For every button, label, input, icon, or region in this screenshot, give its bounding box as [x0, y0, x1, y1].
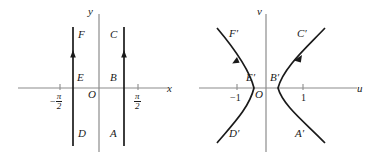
point-label-D-prime: D′: [229, 128, 239, 139]
w-plane-drawing: [185, 0, 370, 166]
u-tick-label-minus-one: −1: [230, 93, 241, 103]
arrow-up-icon-right-line: [121, 50, 127, 58]
y-axis-label: y: [88, 6, 93, 17]
curve-branch-right: [278, 28, 325, 143]
point-label-B-prime: B′: [270, 72, 279, 83]
point-label-E-prime: E′: [246, 72, 255, 83]
v-axis-label: v: [257, 6, 262, 17]
point-label-D: D: [78, 128, 86, 139]
fraction-pi-over-2: π 2: [56, 92, 63, 111]
origin-label: O: [255, 89, 263, 100]
point-label-C: C: [110, 29, 117, 40]
point-label-F-prime: F′: [229, 28, 238, 39]
point-label-C-prime: C′: [297, 28, 307, 39]
panel-z-plane: y x O F C E B D A − π 2 π 2: [0, 0, 185, 166]
point-label-B: B: [110, 72, 117, 83]
arrow-icon-left-branch: [232, 57, 239, 64]
fraction-denominator: 2: [56, 102, 63, 111]
origin-label: O: [88, 89, 96, 100]
panel-w-plane: v u O F′ C′ E′ B′ D′ A′ −1 1: [185, 0, 370, 166]
fraction-denominator: 2: [134, 102, 141, 111]
u-tick-label-one: 1: [301, 93, 306, 103]
math-figure: y x O F C E B D A − π 2 π 2: [0, 0, 370, 166]
curve-branch-left: [217, 28, 254, 143]
z-plane-drawing: [0, 0, 185, 166]
x-tick-label-minus-pi-over-2: − π 2: [50, 92, 62, 111]
x-tick-label-pi-over-2: π 2: [134, 92, 141, 111]
arrow-up-icon-left-line: [70, 50, 76, 58]
u-axis-label: u: [357, 83, 363, 94]
point-label-A-prime: A′: [295, 128, 304, 139]
x-axis-label: x: [167, 83, 172, 94]
point-label-F: F: [78, 29, 85, 40]
point-label-E: E: [77, 72, 84, 83]
fraction-pi-over-2: π 2: [134, 92, 141, 111]
point-label-A: A: [110, 128, 117, 139]
